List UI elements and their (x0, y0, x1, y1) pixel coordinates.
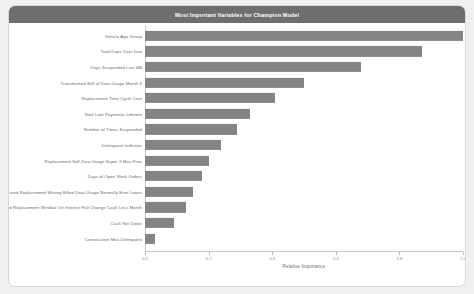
bar-category-label: Days Suspended Last 6M (91, 64, 142, 69)
chart-title-banner: Most Important Variables for Champion Mo… (9, 6, 465, 23)
x-tick-label: 0.2 (206, 256, 212, 261)
bar-category-label: Number of Times Suspended (84, 127, 142, 132)
bar (145, 46, 422, 56)
bar-category-label: Consecutive Mos Delinquent (85, 236, 142, 241)
x-tick (336, 252, 337, 255)
plot-area: Vehicle Age GroupTotal Days Over DueDays… (9, 23, 466, 287)
bar-row: Delinquent Indicator (9, 138, 466, 152)
x-tick-label: 1.0 (460, 256, 466, 261)
bar-row: Days of Open Work Orders (9, 169, 466, 183)
bar-category-label: Replacement Time Cycle Cost (82, 96, 143, 101)
bar-category-label: Vehicle Age Group (105, 33, 142, 38)
bar-row: Replacement Still Zero Usage Super 3 Mos… (9, 154, 466, 168)
bar-row: Cash Net Down (9, 216, 466, 230)
x-tick (272, 252, 273, 255)
x-tick (145, 252, 146, 255)
bar-category-label: Imputed Replacement Window On Interest F… (8, 205, 142, 210)
bar (145, 156, 209, 166)
x-tick-label: 0.4 (269, 256, 275, 261)
bar-category-label: Replacement Still Zero Usage Super 3 Mos… (45, 158, 143, 163)
bar-row: Total Days Over Due (9, 45, 466, 59)
bar-category-label: Cash Net Down (111, 220, 142, 225)
bar (145, 93, 275, 103)
bar (145, 140, 221, 150)
bar (145, 109, 250, 119)
x-axis-label: Relative Importance (145, 264, 463, 269)
bar (145, 187, 193, 197)
bar-row: Insured Replacement Writing Billed Data … (9, 185, 466, 199)
bar-category-label: Insured Replacement Writing Billed Data … (8, 189, 142, 194)
bar-category-label: Days of Open Work Orders (88, 174, 142, 179)
bar (145, 234, 155, 244)
bar-row: Transformed Still of Data Usage Month 6 (9, 76, 466, 90)
x-tick-label: 0.6 (333, 256, 339, 261)
bar-row: Consecutive Mos Delinquent (9, 232, 466, 246)
x-tick-label: 0.0 (142, 256, 148, 261)
bars-layer: Vehicle Age GroupTotal Days Over DueDays… (9, 23, 466, 287)
bar-row: Imputed Replacement Window On Interest F… (9, 201, 466, 215)
bar (145, 78, 304, 88)
bar-row: Replacement Time Cycle Cost (9, 91, 466, 105)
bar (145, 202, 186, 212)
bar (145, 62, 361, 72)
x-tick (463, 252, 464, 255)
bar-row: Total Late Payments Lifetime (9, 107, 466, 121)
chart-card: Most Important Variables for Champion Mo… (8, 5, 466, 287)
bar-row: Days Suspended Last 6M (9, 60, 466, 74)
bar-category-label: Transformed Still of Data Usage Month 6 (60, 80, 142, 85)
bar-row: Number of Times Suspended (9, 123, 466, 137)
bar-category-label: Total Late Payments Lifetime (84, 111, 142, 116)
chart-title: Most Important Variables for Champion Mo… (175, 12, 299, 18)
bar (145, 171, 202, 181)
bar (145, 31, 463, 41)
bar-category-label: Total Days Over Due (100, 49, 142, 54)
bar (145, 124, 237, 134)
bar (145, 218, 174, 228)
bar-row: Vehicle Age Group (9, 29, 466, 43)
x-tick (399, 252, 400, 255)
x-tick (209, 252, 210, 255)
bar-category-label: Delinquent Indicator (102, 142, 142, 147)
x-tick-label: 0.8 (396, 256, 402, 261)
